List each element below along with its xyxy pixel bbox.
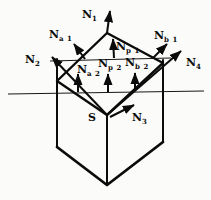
normal-arrow-n1 xyxy=(107,11,110,33)
crystal-diagram xyxy=(0,0,211,200)
normal-arrow-na1 xyxy=(74,44,85,59)
cube-edges xyxy=(57,33,163,185)
label-n3: N3 xyxy=(132,112,147,125)
cube-bottom-edges xyxy=(57,142,163,185)
label-na2: Na 2 xyxy=(77,64,100,77)
label-n1: N1 xyxy=(82,9,97,22)
normal-arrow-np1 xyxy=(113,39,114,58)
normal-arrow-n3 xyxy=(110,105,134,117)
label-np2: Np 2 xyxy=(98,58,122,71)
normal-arrow-nb1 xyxy=(153,44,167,58)
label-source-point: S xyxy=(88,112,96,123)
label-n2: N2 xyxy=(25,54,40,67)
lower-section-line xyxy=(8,91,204,94)
cube-top-face xyxy=(57,33,163,115)
label-np1: Np 1 xyxy=(116,41,140,54)
label-nb2: Nb 2 xyxy=(125,57,149,70)
label-na1: Na 1 xyxy=(49,29,72,42)
crystal-normals-figure: N1 Na 1 Nb 1 N2 N4 Np 1 Na 2 Np 2 Nb 2 S… xyxy=(0,0,211,200)
label-nb1: Nb 1 xyxy=(154,30,178,43)
label-n4: N4 xyxy=(186,57,201,70)
